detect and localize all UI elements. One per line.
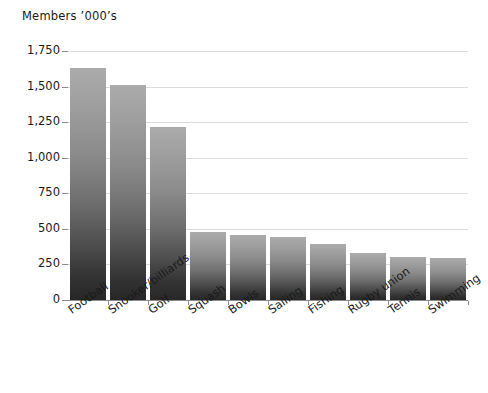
- y-tick-mark: [62, 51, 68, 52]
- y-tick-mark: [62, 158, 68, 159]
- y-tick-label: 750: [38, 187, 60, 199]
- y-tick-mark: [62, 87, 68, 88]
- y-tick-label: 1,000: [27, 152, 60, 164]
- y-tick-mark: [62, 264, 68, 265]
- bar-football: [70, 68, 106, 300]
- y-tick-label: 1,250: [27, 116, 60, 128]
- y-tick-label: 1,500: [27, 81, 60, 93]
- x-tick-mark: [468, 301, 469, 305]
- y-tick-label: 1,750: [27, 45, 60, 57]
- y-axis: 02505007501,0001,2501,5001,750: [0, 0, 60, 393]
- bar-snooker-billiards: [110, 85, 146, 300]
- y-tick-label: 0: [53, 294, 60, 306]
- plot-area: [68, 51, 468, 300]
- y-tick-mark: [62, 122, 68, 123]
- y-tick-mark: [62, 300, 68, 301]
- y-tick-label: 250: [38, 258, 60, 270]
- y-tick-mark: [62, 193, 68, 194]
- y-tick-mark: [62, 229, 68, 230]
- y-tick-label: 500: [38, 223, 60, 235]
- bar-chart: Members ’000’s 02505007501,0001,2501,500…: [0, 0, 488, 393]
- gridline: [68, 51, 468, 52]
